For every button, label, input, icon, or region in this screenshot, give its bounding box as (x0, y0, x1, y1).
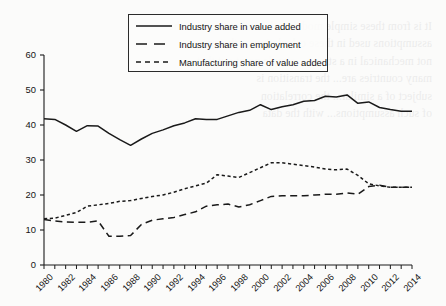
dotted-dash-line-key (135, 56, 173, 68)
chart-figure: It is from these simple models... the ex… (0, 0, 446, 306)
chart-series-layer (44, 95, 412, 236)
legend-label-0: Industry share in value added (179, 21, 301, 32)
chart-axes (40, 55, 412, 269)
x-axis-ticks (44, 265, 412, 269)
legend-item-1: Industry share in employment (135, 37, 301, 51)
y-tick-label-30: 30 (12, 154, 36, 165)
chart-legend: Industry share in value added Industry s… (128, 14, 328, 72)
legend-label-2: Manufacturing share of value added (179, 57, 327, 68)
y-tick-label-50: 50 (12, 84, 36, 95)
y-tick-label-60: 60 (12, 49, 36, 60)
series-line-1 (44, 185, 412, 236)
legend-item-0: Industry share in value added (135, 19, 301, 33)
y-axis-ticks (40, 55, 44, 265)
dashed-line-key (135, 38, 173, 50)
y-tick-label-40: 40 (12, 119, 36, 130)
legend-item-2: Manufacturing share of value added (135, 55, 327, 69)
y-tick-label-0: 0 (12, 259, 36, 270)
y-tick-label-20: 20 (12, 189, 36, 200)
series-line-0 (44, 95, 412, 145)
y-tick-label-10: 10 (12, 224, 36, 235)
legend-label-1: Industry share in employment (179, 39, 301, 50)
series-line-2 (44, 163, 412, 219)
solid-line-key (135, 20, 173, 32)
